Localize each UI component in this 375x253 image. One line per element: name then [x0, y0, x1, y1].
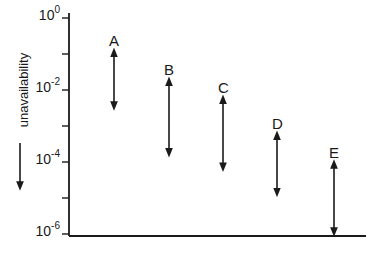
y-tick-label: 10-6	[30, 224, 60, 238]
category-label-a: A	[109, 33, 119, 48]
category-label-e: E	[329, 145, 339, 160]
axes	[62, 13, 366, 236]
y-tick-label: 10-2	[30, 80, 60, 94]
category-label-c: C	[218, 80, 229, 95]
y-tick-label: 10-4	[30, 152, 60, 166]
y-axis-label: unavailability	[16, 53, 31, 127]
category-label-d: D	[272, 116, 283, 131]
chart-canvas	[0, 0, 375, 253]
category-label-b: B	[164, 62, 174, 77]
y-tick-label: 100	[30, 8, 60, 22]
